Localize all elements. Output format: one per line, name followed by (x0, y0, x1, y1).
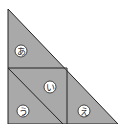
region-label-a: あ (15, 45, 27, 57)
svg-text:あ: あ (17, 47, 26, 57)
region-label-i: い (44, 81, 56, 93)
svg-text:え: え (80, 107, 89, 117)
svg-text:う: う (19, 107, 28, 117)
triangle-diagram: あ い う え (0, 0, 118, 124)
region-label-u: う (17, 105, 29, 117)
svg-text:い: い (46, 83, 55, 93)
region-label-e: え (78, 105, 90, 117)
